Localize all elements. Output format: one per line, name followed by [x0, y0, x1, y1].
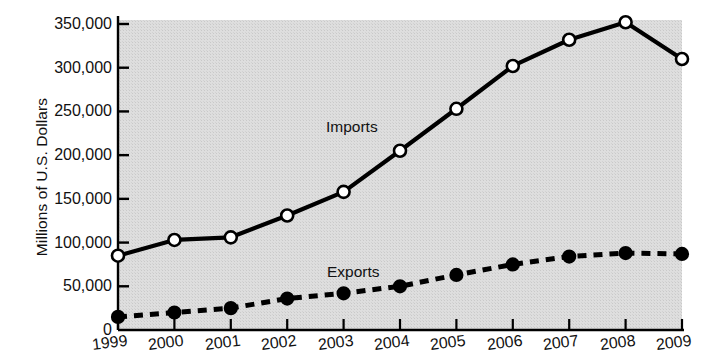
x-axis-tick-label: 2008 [599, 332, 636, 353]
x-axis-tick-label: 2007 [542, 332, 579, 353]
x-axis-tick-labels: 1999200020012002200320042005200620072008… [0, 0, 703, 357]
imports-series-label: Imports [326, 119, 378, 135]
line-chart: Millions of U.S. Dollars 050,000100,0001… [0, 0, 703, 357]
x-axis-tick-label: 2000 [147, 332, 184, 353]
x-axis-tick-label: 2009 [655, 332, 692, 353]
x-axis-tick-label: 2005 [429, 332, 466, 353]
x-axis-tick-label: 2002 [260, 332, 297, 353]
exports-series-label: Exports [327, 264, 380, 280]
x-axis-tick-label: 2006 [486, 332, 523, 353]
x-axis-tick-label: 1999 [91, 332, 128, 353]
x-axis-tick-label: 2003 [317, 332, 354, 353]
x-axis-tick-label: 2001 [204, 332, 241, 353]
x-axis-tick-label: 2004 [373, 332, 410, 353]
